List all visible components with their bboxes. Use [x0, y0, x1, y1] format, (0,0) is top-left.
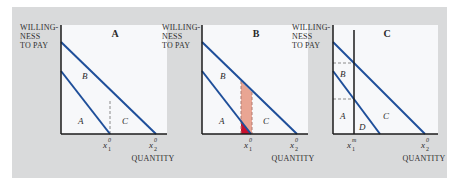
- panel-a-tick-x2: x 0 2: [148, 137, 157, 152]
- panel-b-region-b: B: [220, 71, 226, 81]
- panel-a-region-a: A: [77, 116, 84, 126]
- svg-text:1: 1: [108, 146, 111, 152]
- ylabel-line-2: NESS: [20, 32, 40, 41]
- panel-b-ylabel: WILLING- NESS TO PAY: [162, 23, 201, 50]
- svg-text:x: x: [102, 140, 107, 150]
- svg-text:2: 2: [154, 146, 157, 152]
- panel-a-title: A: [111, 28, 119, 39]
- svg-text:x: x: [289, 140, 294, 150]
- svg-text:x: x: [243, 140, 248, 150]
- svg-text:m: m: [352, 137, 357, 143]
- panel-a-tick-x1: x 0 1: [102, 137, 111, 152]
- ylabel-line-1: WILLING-: [292, 23, 331, 32]
- svg-text:0: 0: [295, 137, 298, 143]
- ylabel-line-2: NESS: [292, 32, 312, 41]
- svg-text:0: 0: [426, 137, 429, 143]
- panel-a-plot-area: [61, 25, 167, 134]
- svg-text:x: x: [420, 140, 425, 150]
- svg-text:2: 2: [295, 146, 298, 152]
- svg-text:1: 1: [352, 146, 355, 152]
- panel-c-title: C: [383, 28, 390, 39]
- svg-text:0: 0: [108, 137, 111, 143]
- svg-text:x: x: [148, 140, 153, 150]
- panel-a-ylabel: WILLING- NESS TO PAY: [20, 23, 59, 50]
- figure-svg: A WILLING- NESS TO PAY B A C x 0 1 x 0 2…: [0, 0, 459, 178]
- ylabel-line-1: WILLING-: [162, 23, 201, 32]
- panel-a-xlabel: QUANTITY: [132, 154, 175, 163]
- panel-c-tick-x2: x 0 2: [420, 137, 429, 152]
- ylabel-line-3: TO PAY: [20, 41, 48, 50]
- svg-text:0: 0: [154, 137, 157, 143]
- panel-b-xlabel: QUANTITY: [272, 154, 315, 163]
- svg-text:0: 0: [249, 137, 252, 143]
- svg-text:2: 2: [426, 146, 429, 152]
- ylabel-line-3: TO PAY: [162, 41, 190, 50]
- panel-b-title: B: [253, 28, 260, 39]
- ylabel-line-1: WILLING-: [20, 23, 59, 32]
- panel-c-region-d: D: [358, 122, 366, 132]
- panel-c: C WILLING- NESS TO PAY B A C D x m 1 x 0…: [292, 23, 445, 163]
- panel-c-xlabel: QUANTITY: [403, 154, 446, 163]
- panel-b-tick-x2: x 0 2: [289, 137, 298, 152]
- svg-text:1: 1: [249, 146, 252, 152]
- panel-b-tick-x1: x 0 1: [243, 137, 252, 152]
- panel-b-region-c: C: [263, 116, 270, 126]
- ylabel-line-2: NESS: [162, 32, 182, 41]
- svg-text:x: x: [346, 140, 351, 150]
- panel-c-tick-x1m: x m 1: [346, 137, 357, 152]
- panel-c-region-c: C: [383, 111, 390, 121]
- panel-b-region-a: A: [218, 116, 225, 126]
- panel-a-region-b: B: [82, 71, 88, 81]
- ylabel-line-3: TO PAY: [292, 41, 320, 50]
- panel-c-region-a: A: [339, 111, 346, 121]
- panel-c-ylabel: WILLING- NESS TO PAY: [292, 23, 331, 50]
- panel-a-region-c: C: [122, 116, 129, 126]
- panel-c-region-b: B: [340, 69, 346, 79]
- panel-a: A WILLING- NESS TO PAY B A C x 0 1 x 0 2…: [20, 23, 174, 163]
